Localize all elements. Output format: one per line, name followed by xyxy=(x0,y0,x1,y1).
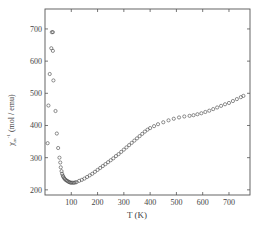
plot-frame xyxy=(45,9,250,195)
x-tick-label: 500 xyxy=(170,198,182,207)
svg-text:χm-1 (mol / emu): χm-1 (mol / emu) xyxy=(6,94,17,147)
data-point xyxy=(59,161,62,164)
data-point xyxy=(219,104,222,107)
data-point xyxy=(58,156,61,159)
data-point xyxy=(51,49,54,52)
y-tick-label: 400 xyxy=(30,121,42,130)
data-point xyxy=(156,123,159,126)
data-point xyxy=(152,125,155,128)
data-point xyxy=(208,109,211,112)
y-tick-label: 200 xyxy=(30,186,42,195)
x-axis-ticks: 100200300400500600700 xyxy=(65,9,235,207)
y-axis-ticks: 200300400500600700 xyxy=(30,25,250,195)
data-point xyxy=(46,142,49,145)
x-tick-label: 400 xyxy=(144,198,156,207)
data-point xyxy=(204,110,207,113)
data-point xyxy=(188,114,191,117)
data-point xyxy=(235,98,238,101)
x-tick-label: 600 xyxy=(197,198,209,207)
data-point xyxy=(200,112,203,115)
x-tick-label: 100 xyxy=(65,198,77,207)
data-point xyxy=(54,109,57,112)
data-point xyxy=(196,113,199,116)
data-point xyxy=(57,146,60,149)
data-point xyxy=(223,103,226,106)
x-tick-label: 200 xyxy=(92,198,104,207)
data-point xyxy=(242,94,245,97)
data-point xyxy=(48,72,51,75)
data-point xyxy=(162,121,165,124)
x-tick-label: 300 xyxy=(118,198,130,207)
data-point xyxy=(192,114,195,117)
data-point xyxy=(55,132,58,135)
data-point xyxy=(177,116,180,119)
y-tick-label: 300 xyxy=(30,154,42,163)
data-point xyxy=(59,166,62,169)
chart: 100200300400500600700 200300400500600700… xyxy=(0,0,255,233)
data-point xyxy=(227,101,230,104)
y-tick-label: 700 xyxy=(30,25,42,34)
data-point xyxy=(231,99,234,102)
y-axis-label-sub: m xyxy=(12,138,17,142)
y-axis-label: χm-1 (mol / emu) xyxy=(6,94,17,147)
y-tick-label: 500 xyxy=(30,89,42,98)
y-tick-label: 600 xyxy=(30,57,42,66)
data-point xyxy=(167,119,170,122)
data-point xyxy=(149,126,152,129)
data-point xyxy=(52,79,55,82)
data-point xyxy=(172,117,175,120)
data-point xyxy=(183,115,186,118)
x-axis-label: T (K) xyxy=(127,210,147,220)
data-point xyxy=(212,107,215,110)
y-axis-label-units: (mol / emu) xyxy=(7,94,16,132)
data-point xyxy=(47,104,50,107)
x-tick-label: 700 xyxy=(223,198,235,207)
plot-border xyxy=(45,9,250,195)
data-points xyxy=(46,31,245,185)
data-point xyxy=(216,106,219,109)
